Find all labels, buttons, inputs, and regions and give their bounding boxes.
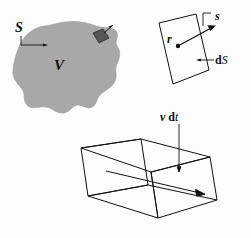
prism-bottom-edge-front xyxy=(88,196,158,218)
swept-volume-group xyxy=(81,124,217,218)
velocity-time-label: v dt xyxy=(160,111,178,123)
prism-far-long-edge xyxy=(151,172,158,218)
flow-velocity-arrow xyxy=(106,171,205,196)
normal-vector-arrow xyxy=(178,25,216,46)
area-label-leader xyxy=(196,58,214,61)
area-element-label: dS xyxy=(215,54,228,66)
area-element-label-symbol: S xyxy=(222,53,228,67)
surface-element-quad xyxy=(159,14,209,84)
surface-element-group xyxy=(159,13,216,84)
time-label-symbol: t xyxy=(175,110,178,124)
volume-label: V xyxy=(54,58,64,73)
normal-vector-label-text: s xyxy=(215,9,220,23)
physics-figure: S V s r dS v dt xyxy=(0,0,251,238)
surface-label: S xyxy=(15,21,23,35)
prism-near-long-edge xyxy=(88,185,148,196)
position-vector-label-text: r xyxy=(167,32,172,46)
normal-vector-label: s xyxy=(215,10,220,22)
time-label-prefix: d xyxy=(168,110,175,124)
position-vector-label: r xyxy=(167,33,172,45)
prism-bottom-edge-back xyxy=(148,185,217,200)
area-element-label-prefix: d xyxy=(215,53,222,67)
volume-panel-group xyxy=(13,22,120,114)
figure-canvas xyxy=(0,0,251,238)
